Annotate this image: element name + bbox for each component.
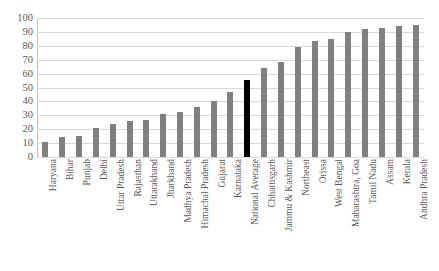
x-label-slot: Madhya Pradesh (172, 159, 189, 271)
x-label-slot: National Average (239, 159, 256, 271)
x-label-slot: Haryana (37, 159, 54, 271)
bar[interactable] (362, 29, 368, 157)
bar[interactable] (328, 39, 334, 157)
gridline-0 (37, 157, 424, 158)
x-tick-label: Andhra Pradesh (420, 159, 430, 220)
bar-slot (239, 18, 256, 157)
x-label-slot: Bihar (54, 159, 71, 271)
x-label-slot: Andhra Pradesh (407, 159, 424, 271)
x-label-slot: Chhattisgarh (256, 159, 273, 271)
bar[interactable] (127, 121, 133, 157)
y-axis-tick-labels: 0102030405060708090100 (0, 18, 33, 157)
bar-slot (71, 18, 88, 157)
bar-slot (273, 18, 290, 157)
y-tick-label-100: 100 (17, 13, 33, 24)
bar-slot (407, 18, 424, 157)
bar-slot (87, 18, 104, 157)
y-tick-label-10: 10 (23, 138, 34, 149)
bar-slot (205, 18, 222, 157)
x-label-slot: Orissa (306, 159, 323, 271)
x-label-slot: Rajasthan (121, 159, 138, 271)
bar[interactable] (227, 92, 233, 157)
bar-slot (340, 18, 357, 157)
bar[interactable] (143, 120, 149, 157)
x-label-slot: Delhi (87, 159, 104, 271)
x-axis-category-labels: HaryanaBiharPunjabDelhiUttar PradeshRaja… (37, 159, 424, 271)
bar[interactable] (345, 32, 351, 157)
bar[interactable] (278, 62, 284, 157)
bar[interactable] (76, 136, 82, 157)
bar[interactable] (244, 80, 250, 157)
bar-slot (256, 18, 273, 157)
y-tick-label-0: 0 (28, 152, 33, 163)
x-label-slot: Gujarat (205, 159, 222, 271)
y-tick-label-30: 30 (23, 110, 34, 121)
bar-slot (289, 18, 306, 157)
bar-slot (188, 18, 205, 157)
x-label-slot: Uttarakhand (138, 159, 155, 271)
bar[interactable] (110, 124, 116, 157)
x-label-slot: Northeast (289, 159, 306, 271)
bar[interactable] (93, 128, 99, 157)
bar[interactable] (413, 25, 419, 157)
x-label-slot: Kerala (390, 159, 407, 271)
x-label-slot: Assam (374, 159, 391, 271)
bar[interactable] (379, 28, 385, 157)
x-label-slot: Jharkhand (155, 159, 172, 271)
y-tick-label-20: 20 (23, 124, 34, 135)
bar-slot (390, 18, 407, 157)
x-label-slot: Tamil Nadu (357, 159, 374, 271)
bar-slot (357, 18, 374, 157)
x-label-slot: Maharashtra, Goa (340, 159, 357, 271)
bar-chart: 0102030405060708090100 HaryanaBiharPunja… (0, 0, 439, 271)
bar-slot (155, 18, 172, 157)
bar-slot (306, 18, 323, 157)
bar-slot (54, 18, 71, 157)
x-label-slot: Uttar Pradesh (104, 159, 121, 271)
x-label-slot: Himachal Pradesh (188, 159, 205, 271)
bar[interactable] (160, 114, 166, 157)
y-tick-label-60: 60 (23, 68, 34, 79)
y-tick-label-80: 80 (23, 41, 34, 52)
bar[interactable] (194, 107, 200, 157)
bar[interactable] (396, 26, 402, 157)
y-tick-label-50: 50 (23, 82, 34, 93)
bar[interactable] (211, 101, 217, 157)
bar[interactable] (177, 112, 183, 157)
bar-slot (172, 18, 189, 157)
bar[interactable] (59, 137, 65, 157)
x-label-slot: Punjab (71, 159, 88, 271)
bar-series (37, 18, 424, 157)
y-tick-label-90: 90 (23, 27, 34, 38)
plot-area (37, 18, 424, 157)
bar[interactable] (312, 41, 318, 157)
bar[interactable] (295, 47, 301, 157)
bar-slot (323, 18, 340, 157)
bar[interactable] (261, 68, 267, 157)
x-label-slot: West Bengal (323, 159, 340, 271)
bar-slot (222, 18, 239, 157)
y-tick-label-70: 70 (23, 54, 34, 65)
bar-slot (37, 18, 54, 157)
x-label-slot: Karnataka (222, 159, 239, 271)
bar-slot (121, 18, 138, 157)
bar-slot (104, 18, 121, 157)
bar[interactable] (42, 142, 48, 157)
x-label-slot: Jammu & Kashmir (273, 159, 290, 271)
y-tick-label-40: 40 (23, 96, 34, 107)
bar-slot (374, 18, 391, 157)
bar-slot (138, 18, 155, 157)
